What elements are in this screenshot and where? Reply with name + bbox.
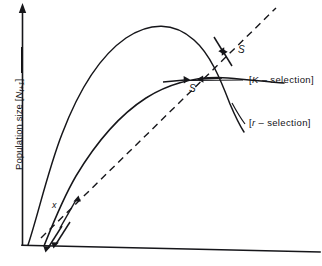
plot-svg bbox=[0, 0, 322, 266]
y-axis-label: Population size [Nt+1] bbox=[11, 0, 27, 170]
k-selection-rest: – selection] bbox=[259, 74, 314, 85]
replacement-diagonal-group bbox=[41, 8, 276, 238]
x-arrow-down-head-icon bbox=[43, 246, 50, 252]
figure-canvas: Population size [Nt+1] [K – selection] [… bbox=[0, 0, 322, 266]
r-selection-curve bbox=[28, 26, 244, 245]
y-axis-label-subscript: t+1 bbox=[18, 81, 25, 91]
s-upper-arrows-group bbox=[214, 37, 232, 66]
k-selection-label: [K – selection] bbox=[249, 74, 314, 85]
s-label-upper: S bbox=[238, 44, 245, 55]
k-selection-symbol: K bbox=[252, 74, 259, 85]
y-axis-label-text: Population size [Nt+1] bbox=[13, 47, 25, 170]
y-axis-label-rule bbox=[21, 47, 22, 73]
x-arrow-up-head-icon bbox=[73, 196, 80, 202]
s-lower-arrow-right-head-icon bbox=[197, 75, 204, 82]
s-lower-arrow-right-line bbox=[202, 78, 222, 79]
replacement-line-dashed bbox=[41, 8, 276, 238]
k-selection-curve bbox=[44, 78, 284, 246]
r-selection-label: [r – selection] bbox=[249, 117, 311, 128]
s-upper-arrow-a-line bbox=[214, 37, 222, 50]
s-label-lower: S bbox=[189, 83, 196, 94]
y-axis-label-prefix: Population size [ bbox=[13, 99, 24, 170]
k-selection-curve-group bbox=[44, 78, 284, 246]
r-selection-rest: – selection] bbox=[256, 117, 311, 128]
r-selection-curve-group bbox=[28, 26, 244, 245]
x-axis bbox=[22, 245, 320, 252]
x-label-unstable-point: x bbox=[52, 200, 57, 210]
k-selection-leader-line bbox=[190, 80, 243, 81]
y-axis-label-suffix: ] bbox=[13, 79, 24, 82]
y-axis-label-symbol: N bbox=[13, 92, 24, 99]
s-upper-arrow-b-line bbox=[224, 53, 232, 66]
